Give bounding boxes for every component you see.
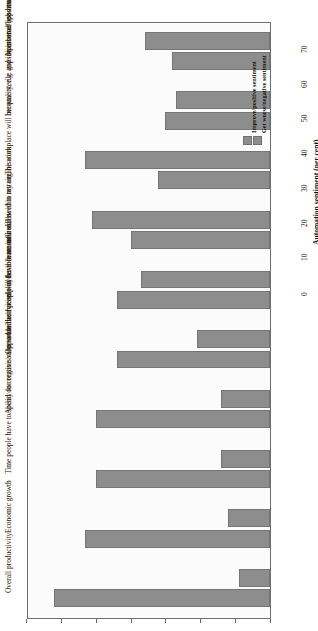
- bar-positive: [85, 530, 270, 548]
- bar-positive: [117, 291, 270, 309]
- bar-group: [28, 320, 270, 380]
- bar-negative: [221, 450, 270, 468]
- bar-negative: [145, 32, 270, 50]
- bar-negative: [85, 151, 270, 169]
- axis-tick-label: 60: [300, 80, 309, 87]
- axis-tick-label: 20: [300, 219, 309, 226]
- bar-positive: [158, 171, 270, 189]
- bar-group: [28, 439, 270, 499]
- bar-group: [28, 21, 270, 81]
- bar-negative: [141, 271, 270, 289]
- bar-negative: [197, 330, 270, 348]
- axis-tick-label: 50: [300, 115, 309, 122]
- bar-negative: [228, 509, 270, 527]
- bar-positive: [165, 112, 270, 130]
- axis-tick-label: 0: [300, 292, 309, 296]
- bar-group: [28, 260, 270, 320]
- axis-tick-mark: [131, 619, 132, 623]
- plot-area: [27, 22, 271, 619]
- bar-group: [28, 81, 270, 141]
- value-axis-title: Automation sentiment (per cent): [312, 139, 318, 245]
- axis-tick-mark: [200, 619, 201, 623]
- bar-group: [28, 200, 270, 260]
- bar-positive: [54, 589, 270, 607]
- bars-layer: [28, 23, 270, 618]
- bar-positive: [96, 410, 270, 428]
- axis-tick-label: 10: [300, 254, 309, 261]
- axis-tick-label: 30: [300, 184, 309, 191]
- bar-negative: [221, 390, 270, 408]
- bar-group: [28, 379, 270, 439]
- chart-figure: [0, 0, 318, 631]
- bar-group: [28, 558, 270, 618]
- bar-positive: [131, 231, 270, 249]
- bar-negative: [92, 211, 270, 229]
- axis-tick-mark: [270, 619, 271, 623]
- axis-tick-mark: [96, 619, 97, 623]
- bar-positive: [172, 52, 270, 70]
- axis-tick-label: 70: [300, 46, 309, 53]
- bar-group: [28, 140, 270, 200]
- bar-negative: [176, 91, 270, 109]
- axis-tick-mark: [61, 619, 62, 623]
- bar-positive: [117, 351, 270, 369]
- axis-tick-mark: [235, 619, 236, 623]
- bar-positive: [96, 470, 270, 488]
- rotated-chart-canvas: [0, 0, 318, 631]
- axis-tick-label: 40: [300, 150, 309, 157]
- axis-tick-mark: [26, 619, 27, 623]
- axis-tick-mark: [165, 619, 166, 623]
- bar-group: [28, 499, 270, 559]
- bar-negative: [239, 569, 270, 587]
